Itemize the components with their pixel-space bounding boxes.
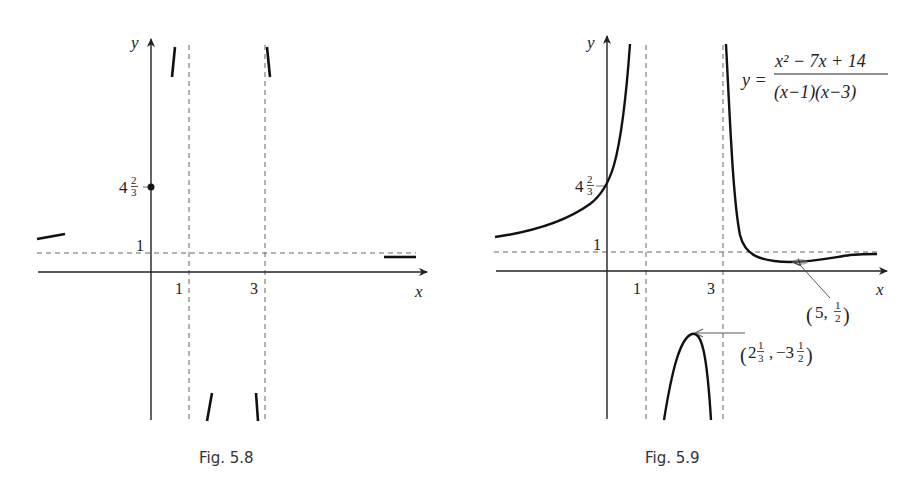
svg-text:3: 3 — [758, 352, 764, 364]
y-axis-label: y — [129, 33, 139, 52]
svg-text:4: 4 — [575, 177, 584, 196]
x-axis-label: x — [875, 280, 884, 299]
tick-label-x3: 3 — [707, 280, 715, 297]
svg-text:5,: 5, — [815, 303, 828, 322]
svg-text:): ) — [806, 344, 813, 367]
curve-fragments — [37, 47, 416, 421]
svg-text:y =: y = — [740, 70, 767, 90]
svg-text:,: , — [769, 343, 773, 362]
point-label-4-2-3: 4 2 3 — [119, 174, 138, 198]
maximum-label: ( 2 1 3 , −3 1 2 ) — [740, 339, 813, 367]
figures-canvas: y x 1 1 3 4 2 3 Fig. 5.8 y — [0, 0, 918, 491]
caption-fig-5-8: Fig. 5.8 — [199, 449, 254, 467]
function-equation: y = x² − 7x + 14 (x−1)(x−3) — [740, 51, 888, 103]
svg-text:3: 3 — [587, 185, 593, 197]
tick-label-x1: 1 — [633, 280, 641, 297]
tick-label-x1: 1 — [175, 280, 183, 297]
y-intercept-point — [148, 184, 155, 191]
svg-text:(x−1)(x−3): (x−1)(x−3) — [774, 82, 856, 103]
svg-text:1: 1 — [798, 339, 804, 351]
tick-label-y1: 1 — [593, 236, 601, 253]
x-axis-label: x — [414, 282, 423, 301]
curve-middle-branch — [664, 334, 711, 420]
svg-text:2: 2 — [798, 352, 804, 364]
svg-text:2: 2 — [748, 343, 757, 362]
svg-text:x² − 7x + 14: x² − 7x + 14 — [774, 51, 866, 71]
minimum-pointer — [800, 265, 830, 298]
figure-5-9: y x 1 1 3 4 2 3 y = x² − 7x + 14 (x−1)(x… — [494, 33, 888, 467]
svg-text:): ) — [843, 304, 850, 327]
svg-text:4: 4 — [119, 178, 128, 197]
caption-fig-5-9: Fig. 5.9 — [645, 449, 700, 467]
tick-label-x3: 3 — [250, 280, 258, 297]
svg-text:3: 3 — [131, 186, 137, 198]
svg-text:−3: −3 — [776, 343, 794, 362]
svg-text:(: ( — [740, 344, 747, 367]
minimum-marker — [792, 259, 808, 265]
figure-5-8: y x 1 1 3 4 2 3 Fig. 5.8 — [37, 33, 427, 467]
curve-left-branch — [495, 44, 630, 237]
svg-text:2: 2 — [587, 173, 593, 185]
svg-text:2: 2 — [835, 312, 841, 324]
svg-text:1: 1 — [835, 299, 841, 311]
svg-text:2: 2 — [131, 174, 137, 186]
svg-text:1: 1 — [758, 339, 764, 351]
y-axis-label: y — [585, 33, 595, 52]
svg-text:(: ( — [806, 304, 813, 327]
tick-label-y1: 1 — [136, 237, 144, 254]
minimum-label: ( 5, 1 2 ) — [806, 299, 850, 327]
